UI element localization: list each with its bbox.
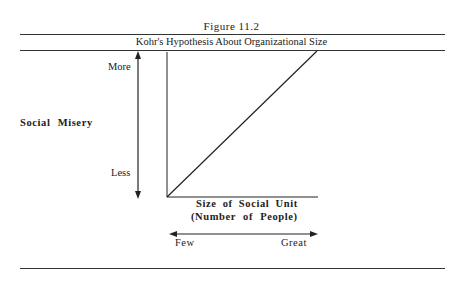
y-high-label: More xyxy=(108,61,131,72)
x-low-label: Few xyxy=(175,237,195,248)
y-axis-label: Social Misery xyxy=(20,117,93,128)
hypothesis-line xyxy=(167,51,317,197)
bottom-rule xyxy=(20,268,445,269)
x-axis-label-line2: (Number of People) xyxy=(191,211,298,222)
x-high-label: Great xyxy=(281,237,307,248)
x-axis-label-line1: Size of Social Unit xyxy=(196,198,298,209)
y-low-label: Less xyxy=(111,167,130,178)
vertical-double-arrow xyxy=(135,51,141,199)
diagram-canvas xyxy=(0,0,463,281)
